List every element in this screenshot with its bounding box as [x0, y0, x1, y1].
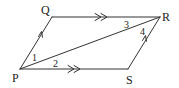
angle-label-3: 3 — [124, 20, 129, 30]
parallelogram-diagram: P Q R S 1 2 3 4 — [0, 0, 179, 88]
angle-label-2: 2 — [53, 59, 58, 69]
angle-label-1: 1 — [32, 53, 37, 63]
vertex-label-s: S — [126, 74, 133, 86]
diagram-lines — [0, 0, 179, 88]
vertex-label-q: Q — [41, 4, 50, 16]
angle-label-4: 4 — [140, 27, 145, 37]
diagonal-pr — [20, 17, 160, 69]
vertex-label-r: R — [162, 11, 170, 23]
vertex-label-p: P — [12, 72, 19, 84]
edge-sr — [128, 17, 160, 69]
